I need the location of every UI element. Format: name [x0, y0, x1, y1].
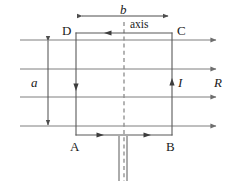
corner-label-D: D — [62, 24, 71, 37]
height-dimension-label: a — [31, 76, 38, 89]
rectangular-coil — [76, 33, 173, 136]
width-dimension-label: b — [120, 3, 127, 16]
current-label: I — [178, 76, 182, 89]
current-arrow-left-down-pointing — [73, 84, 78, 92]
twin-lead-wires — [119, 136, 127, 181]
current-arrow-right-up-pointing — [169, 78, 174, 86]
corner-label-A: A — [70, 140, 79, 153]
physics-diagram-figure: b axis D C a I R A B — [0, 0, 233, 181]
current-arrow-bottom-right-pointing-1 — [97, 132, 105, 137]
corner-label-B: B — [166, 140, 175, 153]
uniform-field-lines — [20, 40, 216, 126]
current-arrow-top-left-pointing — [104, 30, 112, 35]
diagram-canvas — [0, 0, 233, 181]
rotation-axis-label: axis — [130, 19, 149, 31]
field-label: R — [214, 76, 222, 89]
corner-label-C: C — [177, 24, 186, 37]
current-arrow-bottom-right-pointing-2 — [144, 132, 152, 137]
